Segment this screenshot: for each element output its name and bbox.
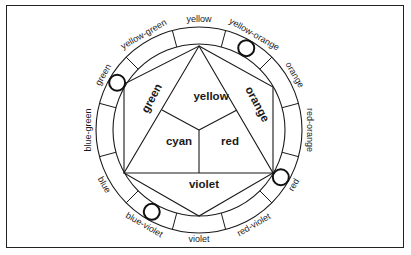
- ring-divider: [172, 31, 176, 47]
- ring-divider: [221, 31, 225, 47]
- ring-divider: [126, 57, 138, 69]
- inner-label-violet: violet: [189, 178, 219, 190]
- ring-label-yellow: yellow: [186, 14, 212, 24]
- ring-divider: [172, 213, 176, 229]
- ring-divider: [100, 152, 116, 156]
- y-branch-left: [162, 110, 199, 130]
- inner-label-red: red: [221, 135, 239, 147]
- marker-circle-yellow-orange: [238, 40, 254, 56]
- ring-label-red-orange: red-orange: [305, 108, 315, 152]
- inner-label-green: green: [139, 81, 164, 114]
- inner-label-cyan: cyan: [166, 135, 192, 147]
- ring-label-orange: orange: [284, 60, 307, 89]
- ring-divider: [282, 103, 298, 107]
- ring-divider: [260, 57, 272, 69]
- ring-divider: [282, 152, 298, 156]
- color-wheel: yellowyellow-orangeorangered-orangeredre…: [0, 0, 411, 255]
- ring-divider: [126, 191, 138, 203]
- marker-circle-red: [273, 169, 289, 185]
- ring-label-blue-green: blue-green: [83, 108, 93, 151]
- marker-circle-green: [109, 75, 125, 91]
- inner-geometry: [124, 46, 273, 216]
- ring-divider: [100, 103, 116, 107]
- marker-circle-blue-violet: [144, 204, 160, 220]
- inner-label-yellow: yellow: [193, 90, 228, 102]
- ring-label-violet: violet: [188, 234, 210, 244]
- ring-label-blue: blue: [96, 175, 113, 195]
- y-branch-right: [199, 110, 237, 130]
- ring-divider: [260, 191, 272, 203]
- ring-divider: [221, 213, 225, 229]
- inner-label-orange: orange: [243, 84, 272, 123]
